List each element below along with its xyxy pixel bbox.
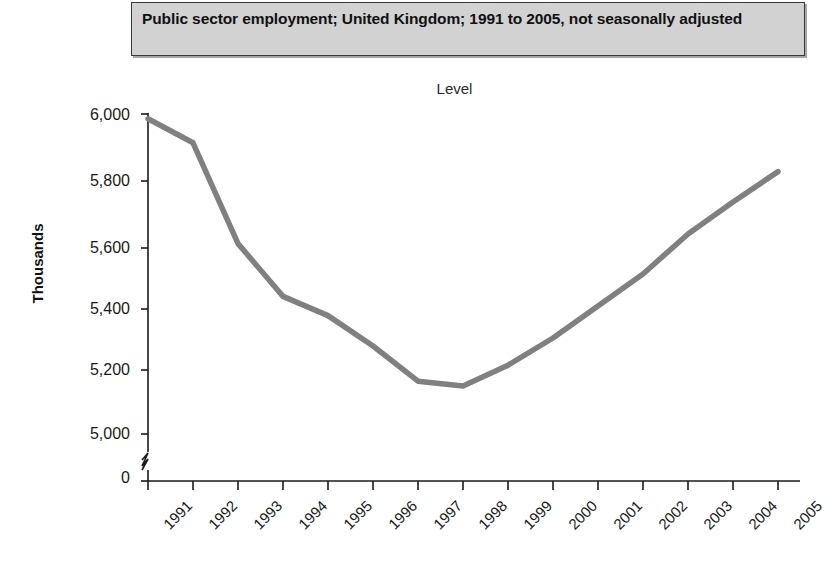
chart-page: Public sector employment; United Kingdom… bbox=[0, 0, 839, 565]
axis-break-icon bbox=[142, 453, 148, 470]
x-tick-marks bbox=[148, 481, 778, 490]
chart-plot-area bbox=[0, 0, 839, 565]
data-series-line bbox=[148, 119, 778, 386]
